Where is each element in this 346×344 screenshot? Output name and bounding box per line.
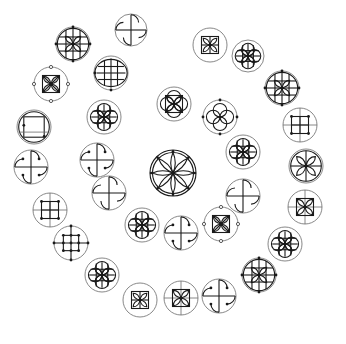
symbol-lattice-petals-circles <box>87 100 121 134</box>
symbol-petal-cross <box>289 149 323 183</box>
symbol-four-circles <box>202 99 239 136</box>
symbol-lattice-dots <box>33 193 67 227</box>
symbol-pinwheel-dots <box>14 150 48 184</box>
symbol-square-circle <box>17 110 51 144</box>
symbol-lattice-petals <box>264 70 301 107</box>
symbol-square-circles-petals <box>157 87 191 121</box>
symbol-lattice-petals-circles <box>85 258 119 292</box>
symbol-square-x-cross <box>164 281 198 315</box>
symbol-pinwheel-dots <box>164 216 198 250</box>
symbol-diagram <box>0 0 346 344</box>
symbol-lattice-dots <box>283 108 317 142</box>
symbol-lattice-petals-circles <box>125 208 159 242</box>
symbol-pinwheel <box>115 14 147 46</box>
symbol-lattice-petals-circles <box>232 40 264 72</box>
symbol-lattice-petals-circles <box>268 227 302 261</box>
symbol-square-pinwheel <box>193 28 227 62</box>
symbol-square-pinwheel <box>123 283 157 317</box>
symbol-pinwheel <box>92 176 126 210</box>
symbol-lattice-petals-circles <box>226 135 260 169</box>
symbol-pinwheel-dots <box>80 143 114 177</box>
symbol-pinwheel <box>226 179 260 213</box>
diagram-canvas <box>0 0 346 344</box>
symbol-lattice-petals <box>55 26 92 63</box>
center-rosette <box>150 150 196 196</box>
symbol-square-x-cross <box>288 190 322 224</box>
symbol-square-x-dots <box>32 65 69 102</box>
symbol-lattice-dots-cross <box>53 225 90 262</box>
symbol-lattice-petals <box>241 257 278 294</box>
symbol-pinwheel-dots <box>202 279 236 313</box>
symbol-square-x-dots <box>202 205 239 242</box>
symbol-lattice-circle <box>93 56 128 91</box>
